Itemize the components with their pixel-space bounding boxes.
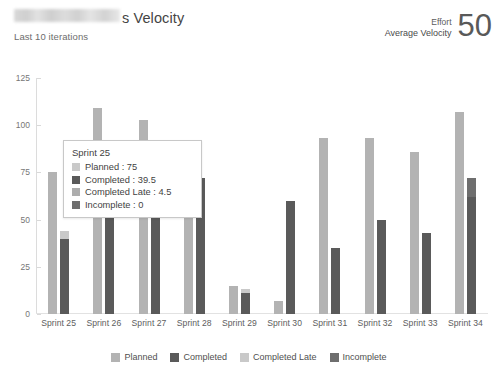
y-axis-tick-mark [37,314,41,315]
bar-segment[interactable] [467,178,476,197]
bar-actual[interactable] [151,210,160,314]
page-title-text: s Velocity [122,10,184,26]
legend-swatch [240,353,249,362]
bar-actual[interactable] [377,220,386,314]
bar-segment[interactable] [48,172,57,314]
tooltip-text: Planned : 75 [85,162,137,172]
legend-item[interactable]: Planned [111,352,157,362]
bar-planned[interactable] [48,172,57,314]
x-axis-label: Sprint 29 [217,318,262,328]
bar-segment[interactable] [377,220,386,314]
bar-segment[interactable] [151,210,160,314]
y-axis-tick-label: 100 [4,120,30,130]
bar-segment[interactable] [60,231,69,239]
bar-segment[interactable] [286,201,295,314]
bar-planned[interactable] [229,286,238,314]
x-axis-labels: Sprint 25Sprint 26Sprint 27Sprint 28Spri… [36,318,488,328]
legend-swatch [330,353,339,362]
legend-swatch [170,353,179,362]
bar-actual[interactable] [105,210,114,314]
legend-item[interactable]: Completed [170,352,227,362]
x-axis-label: Sprint 25 [36,318,81,328]
tooltip-row: Planned : 75 [72,162,193,172]
kpi-labels: Effort Average Velocity [385,12,458,39]
x-axis-label: Sprint 30 [262,318,307,328]
x-axis-label: Sprint 31 [307,318,352,328]
bar-planned[interactable] [410,152,419,314]
bar-actual[interactable] [286,201,295,314]
tooltip-title: Sprint 25 [72,147,193,158]
tooltip-swatch [72,176,80,184]
bar-segment[interactable] [241,293,250,314]
tooltip-text: Incomplete : 0 [85,200,143,210]
bar-segment[interactable] [105,210,114,314]
bar-group[interactable] [307,78,352,314]
bar-segment[interactable] [410,152,419,314]
kpi-average-velocity: Effort Average Velocity 50 [385,12,492,41]
tooltip-swatch [72,201,80,209]
x-axis-label: Sprint 33 [398,318,443,328]
bar-segment[interactable] [331,248,340,314]
bar-group[interactable] [352,78,397,314]
bar-segment[interactable] [319,138,328,314]
bar-actual[interactable] [241,289,250,314]
bar-planned[interactable] [274,301,283,314]
tooltip-row: Incomplete : 0 [72,200,193,210]
y-axis-tick-label: 50 [4,215,30,225]
bar-segment[interactable] [229,286,238,314]
bar-group[interactable] [262,78,307,314]
y-axis-tick-label: 25 [4,262,30,272]
bar-segment[interactable] [60,239,69,314]
bar-actual[interactable] [60,231,69,314]
legend-item[interactable]: Completed Late [240,352,317,362]
bar-actual[interactable] [467,178,476,314]
x-axis-label: Sprint 27 [126,318,171,328]
legend-item[interactable]: Incomplete [330,352,387,362]
x-axis-label: Sprint 34 [443,318,488,328]
kpi-effort-label: Effort [385,17,452,28]
bar-segment[interactable] [274,301,283,314]
y-axis-tick-label: 125 [4,73,30,83]
bar-group[interactable] [443,78,488,314]
legend-label: Planned [124,352,157,362]
tooltip-rows: Planned : 75Completed : 39.5Completed La… [72,162,193,210]
tooltip-row: Completed : 39.5 [72,175,193,185]
bar-planned[interactable] [455,112,464,314]
tooltip-text: Completed Late : 4.5 [85,187,171,197]
x-axis-label: Sprint 28 [172,318,217,328]
y-axis-tick-label: 0 [4,309,30,319]
legend-label: Completed [183,352,227,362]
tooltip-swatch [72,188,80,196]
legend-label: Completed Late [253,352,317,362]
tooltip-swatch [72,163,80,171]
y-axis-tick-label: 75 [4,167,30,177]
redacted-title-block [14,9,120,22]
bar-actual[interactable] [422,233,431,314]
tooltip-row: Completed Late : 4.5 [72,187,193,197]
bar-actual[interactable] [331,248,340,314]
bar-tooltip: Sprint 25 Planned : 75Completed : 39.5Co… [63,140,202,218]
bar-planned[interactable] [365,138,374,314]
bar-segment[interactable] [422,233,431,314]
x-axis-label: Sprint 26 [81,318,126,328]
legend-swatch [111,353,120,362]
bar-group[interactable] [217,78,262,314]
bar-group[interactable] [398,78,443,314]
bar-planned[interactable] [319,138,328,314]
legend-label: Incomplete [343,352,387,362]
velocity-chart-widget: s Velocity Last 10 iterations Effort Ave… [0,0,498,382]
bar-segment[interactable] [365,138,374,314]
chart-legend: PlannedCompletedCompleted LateIncomplete [0,352,498,362]
kpi-metric-label: Average Velocity [385,28,452,39]
bar-segment[interactable] [455,112,464,314]
bar-segment[interactable] [467,197,476,314]
kpi-value: 50 [458,12,492,41]
x-axis-label: Sprint 32 [352,318,397,328]
tooltip-text: Completed : 39.5 [85,175,156,185]
